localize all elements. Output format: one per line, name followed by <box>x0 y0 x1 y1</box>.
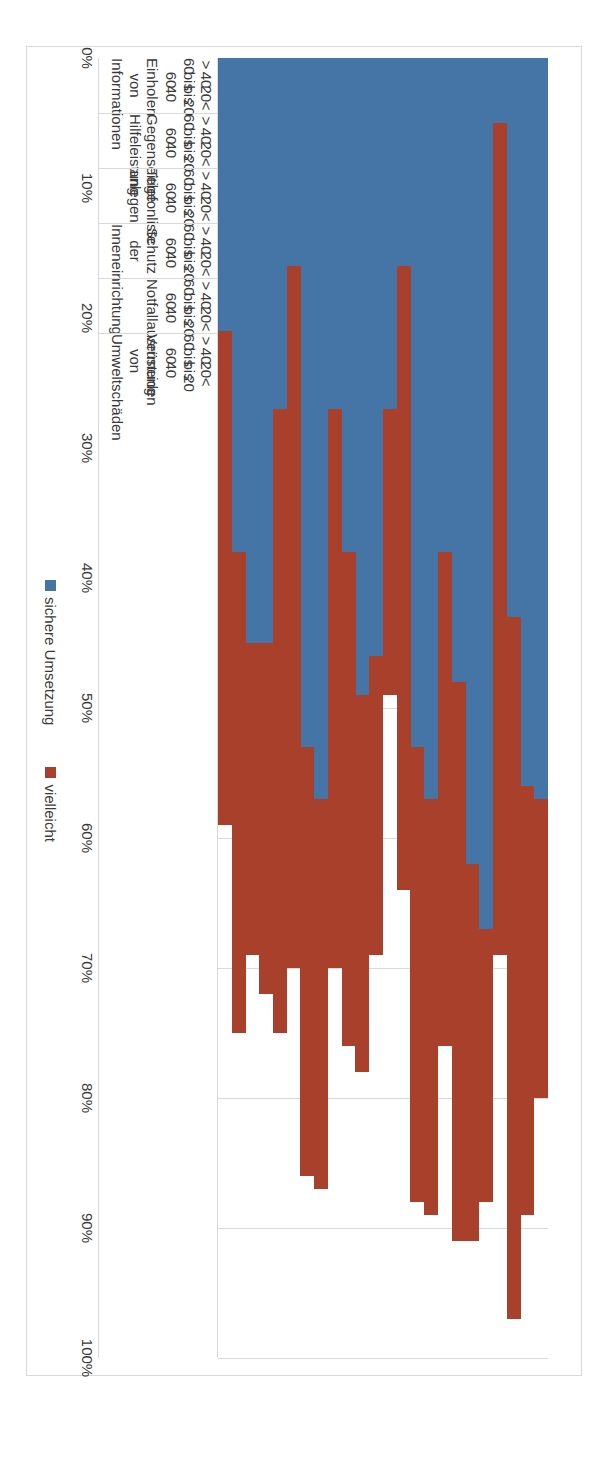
bar-segment-vielleicht[interactable] <box>534 799 548 1098</box>
age-tick-label: 20 bis 40 <box>163 197 215 211</box>
bar-segment-sichere-umsetzung[interactable] <box>424 58 438 799</box>
bar-row[interactable] <box>507 58 521 1358</box>
bar-row[interactable] <box>465 58 479 1358</box>
bar-row[interactable] <box>314 58 328 1358</box>
bar-row[interactable] <box>287 58 301 1358</box>
category-axis-group: > 6040 bis 6020 bis 40< 20Einholen von I… <box>99 58 217 113</box>
bar-segment-vielleicht[interactable] <box>438 552 452 1046</box>
bar-segment-vielleicht[interactable] <box>300 747 314 1176</box>
bar-row[interactable] <box>520 58 534 1358</box>
bar-segment-sichere-umsetzung[interactable] <box>465 58 479 864</box>
bar-row[interactable] <box>300 58 314 1358</box>
bar-segment-sichere-umsetzung[interactable] <box>245 58 259 643</box>
bar-segment-vielleicht[interactable] <box>452 682 466 1241</box>
bar-segment-vielleicht[interactable] <box>424 799 438 1215</box>
bar-segment-vielleicht[interactable] <box>493 123 507 955</box>
bar-segment-vielleicht[interactable] <box>479 929 493 1202</box>
bar-segment-vielleicht[interactable] <box>259 643 273 994</box>
bar-row[interactable] <box>452 58 466 1358</box>
bar-segment-sichere-umsetzung[interactable] <box>232 58 246 552</box>
bar-segment-vielleicht[interactable] <box>328 409 342 968</box>
bar-row[interactable] <box>397 58 411 1358</box>
bar-segment-sichere-umsetzung[interactable] <box>355 58 369 695</box>
bar-row[interactable] <box>534 58 548 1358</box>
rotated-chart-stage: > 6040 bis 6020 bis 40< 20Einholen von I… <box>26 46 582 1376</box>
chart-legend: sichere Umsetzungvielleicht <box>38 46 64 1376</box>
bar-segment-sichere-umsetzung[interactable] <box>342 58 356 552</box>
bar-segment-vielleicht[interactable] <box>465 864 479 1241</box>
age-tick-label: 40 bis 60 <box>163 348 215 362</box>
bar-segment-vielleicht[interactable] <box>245 643 259 955</box>
bar-segment-vielleicht[interactable] <box>232 552 246 1033</box>
age-tick-label: 40 bis 60 <box>163 293 215 307</box>
bar-segment-vielleicht[interactable] <box>342 552 356 1046</box>
bar-segment-sichere-umsetzung[interactable] <box>314 58 328 799</box>
bar-segment-sichere-umsetzung[interactable] <box>259 58 273 643</box>
bar-segment-vielleicht[interactable] <box>314 799 328 1189</box>
bar-segment-vielleicht[interactable] <box>383 409 397 695</box>
bar-row[interactable] <box>383 58 397 1358</box>
bar-row[interactable] <box>410 58 424 1358</box>
bar-segment-sichere-umsetzung[interactable] <box>287 58 301 266</box>
bar-segment-sichere-umsetzung[interactable] <box>369 58 383 656</box>
legend-item[interactable]: sichere Umsetzung <box>43 580 60 725</box>
bar-segment-sichere-umsetzung[interactable] <box>328 58 342 409</box>
bar-segment-sichere-umsetzung[interactable] <box>383 58 397 409</box>
bar-row[interactable] <box>369 58 383 1358</box>
bar-segment-vielleicht[interactable] <box>410 747 424 1202</box>
value-tick-label: 50% <box>79 693 96 723</box>
age-tick-label: 40 bis 60 <box>163 183 215 197</box>
bar-segment-sichere-umsetzung[interactable] <box>273 58 287 409</box>
bar-row[interactable] <box>493 58 507 1358</box>
age-tick-label: > 60 <box>181 169 216 183</box>
age-tick-label: 40 bis 60 <box>163 238 215 252</box>
plot-area <box>218 58 548 1358</box>
bar-segment-sichere-umsetzung[interactable] <box>534 58 548 799</box>
bar-row[interactable] <box>479 58 493 1358</box>
bar-segment-sichere-umsetzung[interactable] <box>452 58 466 682</box>
age-tick-label: 20 bis 40 <box>163 362 215 376</box>
bar-row[interactable] <box>218 58 232 1358</box>
bar-segment-sichere-umsetzung[interactable] <box>397 58 411 266</box>
bar-segment-vielleicht[interactable] <box>287 266 301 968</box>
value-axis: 0%10%20%30%40%50%60%70%80%90%100% <box>70 58 96 1358</box>
bar-row[interactable] <box>232 58 246 1358</box>
chart-area: > 6040 bis 6020 bis 40< 20Einholen von I… <box>26 46 582 1376</box>
bar-segment-sichere-umsetzung[interactable] <box>218 58 232 331</box>
bar-segment-vielleicht[interactable] <box>369 656 383 955</box>
bar-segment-sichere-umsetzung[interactable] <box>507 58 521 617</box>
bar-segment-sichere-umsetzung[interactable] <box>300 58 314 747</box>
bar-row[interactable] <box>328 58 342 1358</box>
bar-row[interactable] <box>342 58 356 1358</box>
bar-segment-vielleicht[interactable] <box>397 266 411 890</box>
legend-label: vielleicht <box>43 784 60 842</box>
bar-segment-vielleicht[interactable] <box>507 617 521 1319</box>
legend-swatch-icon <box>46 767 57 778</box>
bar-row[interactable] <box>245 58 259 1358</box>
bar-row[interactable] <box>438 58 452 1358</box>
age-tick-label: 40 bis 60 <box>163 72 215 86</box>
age-tick-label: < 20 <box>181 99 216 113</box>
age-tick-labels: > 6040 bis 6020 bis 40< 20 <box>167 224 215 278</box>
bar-segment-sichere-umsetzung[interactable] <box>479 58 493 929</box>
bar-segment-vielleicht[interactable] <box>520 786 534 1215</box>
category-label: Einholen von Informationen <box>109 58 161 113</box>
value-tick-label: 30% <box>79 433 96 463</box>
bar-segment-vielleicht[interactable] <box>218 331 232 825</box>
bar-segment-sichere-umsetzung[interactable] <box>493 58 507 123</box>
bar-row[interactable] <box>424 58 438 1358</box>
bar-row[interactable] <box>273 58 287 1358</box>
age-tick-labels: > 6040 bis 6020 bis 40< 20 <box>167 279 215 333</box>
bar-row[interactable] <box>259 58 273 1358</box>
category-label: Telefonliste anlegen <box>127 169 162 223</box>
bar-segment-sichere-umsetzung[interactable] <box>520 58 534 786</box>
bar-segment-vielleicht[interactable] <box>355 695 369 1072</box>
bar-segment-sichere-umsetzung[interactable] <box>438 58 452 552</box>
legend-swatch-icon <box>46 580 57 591</box>
legend-item[interactable]: vielleicht <box>43 767 60 842</box>
bar-segment-vielleicht[interactable] <box>273 409 287 1033</box>
bar-group <box>328 58 383 1358</box>
bar-segment-sichere-umsetzung[interactable] <box>410 58 424 747</box>
bar-row[interactable] <box>355 58 369 1358</box>
category-axis-group: > 6040 bis 6020 bis 40< 20Schutz der Inn… <box>99 223 217 278</box>
